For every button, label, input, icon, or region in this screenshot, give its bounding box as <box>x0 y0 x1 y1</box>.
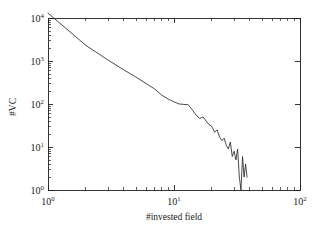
y-axis-major-ticks <box>48 18 300 190</box>
x-tick-label-exp: 1 <box>177 195 180 202</box>
log-log-line-chart: 100 101 102 103 104 100 101 10 <box>0 0 323 232</box>
figure-panel: 100 101 102 103 104 100 101 10 <box>0 0 323 232</box>
svg-text:104: 104 <box>31 12 45 24</box>
y-tick-label-base: 10 <box>31 142 41 153</box>
svg-text:101: 101 <box>31 141 44 153</box>
svg-text:100: 100 <box>31 184 45 196</box>
y-axis-title: #VC <box>8 98 18 116</box>
data-series-line <box>48 13 247 190</box>
x-tick-label-base: 10 <box>41 196 51 207</box>
svg-text:102: 102 <box>31 98 45 110</box>
x-tick-label-exp: 2 <box>303 195 307 202</box>
x-tick-label-exp: 0 <box>51 195 55 202</box>
x-axis-tick-labels: 100 101 102 <box>41 195 307 207</box>
y-tick-label-base: 10 <box>31 13 41 24</box>
y-tick-label-exp: 4 <box>41 12 45 19</box>
svg-text:101: 101 <box>167 195 180 207</box>
x-axis-title: #invested field <box>146 212 202 222</box>
y-tick-label-base: 10 <box>31 185 41 196</box>
svg-text:102: 102 <box>293 195 307 207</box>
plot-frame <box>48 18 300 190</box>
y-tick-label-exp: 2 <box>41 98 45 105</box>
x-axis-major-ticks <box>48 18 300 190</box>
svg-text:100: 100 <box>41 195 55 207</box>
x-tick-label-base: 10 <box>167 196 177 207</box>
y-tick-label-exp: 0 <box>41 184 45 191</box>
x-tick-label-base: 10 <box>293 196 303 207</box>
y-tick-label-base: 10 <box>31 56 41 67</box>
y-tick-label-exp: 1 <box>41 141 44 148</box>
svg-text:103: 103 <box>31 55 45 67</box>
x-axis-minor-ticks <box>86 18 294 190</box>
y-tick-label-base: 10 <box>31 99 41 110</box>
y-tick-label-exp: 3 <box>41 55 45 62</box>
y-axis-tick-labels: 100 101 102 103 104 <box>31 12 45 196</box>
